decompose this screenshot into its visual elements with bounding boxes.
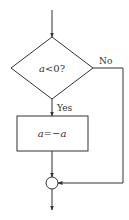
decision-label: a<0? — [39, 63, 65, 74]
yes-label: Yes — [56, 103, 72, 113]
flowchart: a<0? Yes a=−a No — [0, 0, 129, 220]
join-circle — [46, 177, 58, 189]
no-label: No — [99, 56, 112, 66]
process-label: a=−a — [38, 128, 67, 139]
